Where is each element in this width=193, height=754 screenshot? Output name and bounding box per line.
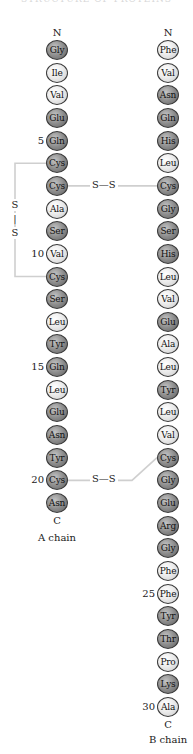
- b-chain-residue-25: Phe: [157, 584, 179, 604]
- b-chain-residue-5: His: [157, 131, 179, 151]
- b-chain-residue-18: Val: [157, 425, 179, 445]
- a-chain-residue-10: Val: [46, 244, 68, 264]
- insulin-diagram: N GlyIleValGluGln5CysCysAlaSerVal10CysSe…: [0, 0, 193, 754]
- a-chain-label: A chain: [22, 532, 92, 544]
- intrachain-disulfide-s-bottom: S: [9, 227, 21, 239]
- a-chain-residue-11: Cys: [46, 267, 68, 287]
- a-chain-residue-13: Leu: [46, 312, 68, 332]
- b-chain-residue-28: Pro: [157, 652, 179, 672]
- b-chain-residue-15: Leu: [157, 357, 179, 377]
- b-chain-residue-2: Val: [157, 63, 179, 83]
- b-chain-residue-7: Cys: [157, 176, 179, 196]
- b-chain-residue-19: Cys: [157, 448, 179, 468]
- b-chain-residue-11: Leu: [157, 267, 179, 287]
- a-chain-c-terminus: C: [37, 515, 77, 527]
- a-chain-residue-7: Cys: [46, 176, 68, 196]
- b-chain-residue-21: Glu: [157, 493, 179, 513]
- a-chain-residue-4: Glu: [46, 108, 68, 128]
- a-chain-residue-8: Ala: [46, 199, 68, 219]
- b-chain-residue-number: 30: [135, 701, 155, 713]
- a-chain-residue-21: Asn: [46, 493, 68, 513]
- b-chain-residue-13: Glu: [157, 312, 179, 332]
- a-chain-residue-1: Gly: [46, 40, 68, 60]
- b-chain-residue-4: Gln: [157, 108, 179, 128]
- intrachain-disulfide-s-top: S: [9, 199, 21, 211]
- a-chain-residue-15: Gln: [46, 357, 68, 377]
- a-chain-residue-number: 5: [24, 135, 44, 147]
- a-chain-residue-2: Ile: [46, 63, 68, 83]
- b-chain-residue-8: Gly: [157, 199, 179, 219]
- b-chain-n-terminus: N: [148, 27, 188, 39]
- b-chain-residue-1: Phe: [157, 40, 179, 60]
- a-chain-residue-19: Tyr: [46, 448, 68, 468]
- interchain-disulfide-label-a7-b7: S—S: [90, 179, 118, 191]
- intrachain-disulfide-bond-bar: |: [9, 213, 21, 225]
- a-chain-residue-number: 15: [24, 361, 44, 373]
- a-chain-residue-18: Asn: [46, 425, 68, 445]
- b-chain-residue-27: Thr: [157, 629, 179, 649]
- b-chain-residue-10: His: [157, 244, 179, 264]
- a-chain-residue-5: Gln: [46, 131, 68, 151]
- b-chain-residue-number: 25: [135, 588, 155, 600]
- a-chain-n-terminus: N: [37, 27, 77, 39]
- a-chain-residue-12: Ser: [46, 289, 68, 309]
- b-chain-residue-16: Tyr: [157, 380, 179, 400]
- a-chain-residue-16: Leu: [46, 380, 68, 400]
- b-chain-c-terminus: C: [148, 719, 188, 731]
- a-chain-residue-number: 10: [24, 248, 44, 260]
- interchain-disulfide-label-a20-b19: S—S: [90, 473, 118, 485]
- a-chain-residue-number: 20: [24, 474, 44, 486]
- b-chain-residue-22: Arg: [157, 516, 179, 536]
- b-chain-residue-24: Phe: [157, 561, 179, 581]
- b-chain-label: B chain: [133, 734, 193, 746]
- b-chain-residue-30: Ala: [157, 697, 179, 717]
- b-chain-residue-12: Val: [157, 289, 179, 309]
